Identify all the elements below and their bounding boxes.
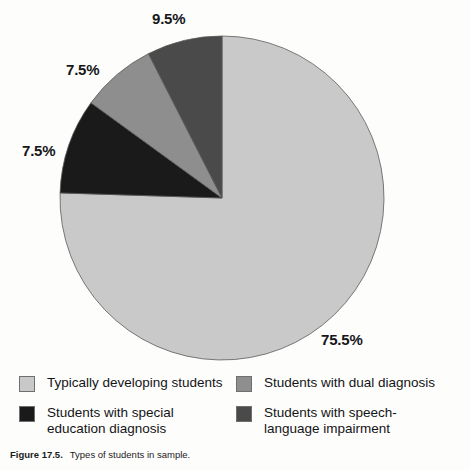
legend-swatch-typically-developing [19,376,35,392]
legend-item-special-education: Students with special education diagnosi… [19,405,174,436]
pie-slice-group [60,36,384,360]
figure-container: 9.5% 7.5% 7.5% 75.5% Typically developin… [0,0,470,470]
legend: Typically developing students Students w… [0,372,470,440]
legend-label-speech-language: Students with speech- language impairmen… [264,405,397,436]
figure-caption-text: Types of students in sample. [70,449,190,460]
pct-label-dual-diagnosis: 7.5% [66,61,99,78]
legend-item-typically-developing: Typically developing students [19,375,223,392]
legend-label-dual-diagnosis: Students with dual diagnosis [264,375,435,391]
legend-swatch-special-education [19,406,35,422]
legend-swatch-speech-language [236,406,252,422]
legend-swatch-dual-diagnosis [236,376,252,392]
pie-chart: 9.5% 7.5% 7.5% 75.5% [0,0,470,368]
pie-chart-svg [0,0,470,368]
legend-item-dual-diagnosis: Students with dual diagnosis [236,375,435,392]
figure-caption-label: Figure 17.5. [10,449,63,460]
legend-label-typically-developing: Typically developing students [47,375,223,391]
pct-label-special-education: 9.5% [152,10,185,27]
pct-label-typically-developing: 75.5% [321,331,363,348]
figure-caption: Figure 17.5.Types of students in sample. [10,449,460,460]
legend-label-special-education: Students with special education diagnosi… [47,405,174,436]
pct-label-speech-language: 7.5% [22,142,55,159]
legend-item-speech-language: Students with speech- language impairmen… [236,405,397,436]
